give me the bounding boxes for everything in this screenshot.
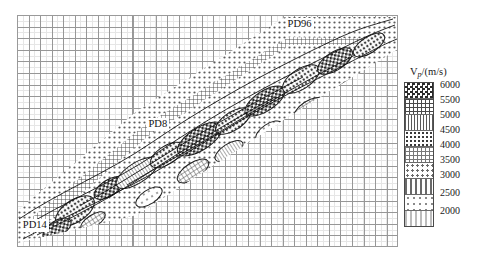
- legend-swatch-5000: [405, 115, 433, 131]
- legend-swatch-6000: [405, 83, 433, 99]
- well-label-pd14: PD14: [21, 219, 49, 232]
- pattern-grid-medium: [405, 147, 433, 162]
- legend-title-units: /(m/s): [422, 66, 447, 77]
- legend-swatch-3500: [405, 163, 433, 179]
- legend-swatch-2500: [405, 195, 433, 211]
- pattern-checker-dark: [405, 83, 433, 98]
- pattern-cross-hatch-dense: [405, 99, 433, 114]
- legend-label-5500: 5500: [440, 95, 460, 105]
- pattern-vertical-lines: [405, 115, 433, 130]
- legend-label-3500: 3500: [440, 155, 460, 165]
- legend-title-symbol: V: [410, 66, 418, 77]
- legend-swatch-3000: [405, 179, 433, 195]
- velocity-band: [17, 15, 398, 247]
- well-label-pd96: PD96: [286, 18, 314, 31]
- legend-label-3000: 3000: [440, 170, 460, 180]
- legend-label-2500: 2500: [440, 188, 460, 198]
- legend-swatch-4000: [405, 147, 433, 163]
- pattern-dots-dense: [405, 131, 433, 146]
- legend-swatch-column: [404, 82, 434, 227]
- pattern-dots-sparse: [405, 195, 433, 210]
- legend-label-4500: 4500: [440, 125, 460, 135]
- legend-label-5000: 5000: [440, 110, 460, 120]
- legend-label-2000: 2000: [440, 206, 460, 216]
- legend-label-column: 6000 5500 5000 4500 4000 3500 3000 2500 …: [440, 82, 484, 227]
- velocity-legend: Vp/(m/s) 6000 5500 5000 4500 4000 3500: [404, 66, 488, 227]
- pattern-dots-medium: [405, 163, 433, 178]
- legend-label-6000: 6000: [440, 80, 460, 90]
- legend-label-4000: 4000: [440, 140, 460, 150]
- well-label-pd8: PD8: [147, 118, 170, 131]
- pattern-dash-rows: [405, 179, 433, 194]
- velocity-cross-section-figure: PD96 PD8 PD14 Vp/(m/s) 6000 5500: [0, 0, 490, 267]
- legend-swatch-2000: [405, 211, 433, 226]
- legend-title: Vp/(m/s): [410, 66, 488, 79]
- pattern-dash-sparse: [405, 211, 433, 226]
- legend-swatch-4500: [405, 131, 433, 147]
- plot-panel: PD96 PD8 PD14: [17, 15, 398, 247]
- legend-swatch-5500: [405, 99, 433, 115]
- legend-body: 6000 5500 5000 4500 4000 3500 3000 2500 …: [404, 82, 488, 227]
